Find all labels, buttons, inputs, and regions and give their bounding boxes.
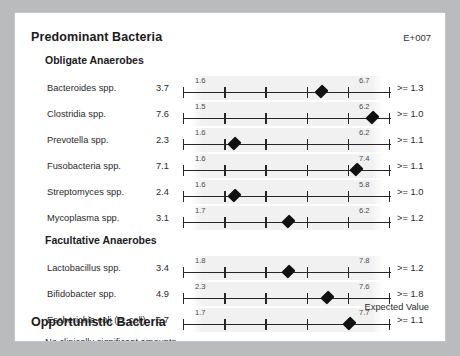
range-shading — [191, 128, 383, 152]
report-card: Predominant Bacteria E+007 Obligate Anae… — [14, 12, 446, 342]
axis-tick — [307, 319, 308, 330]
axis-tick — [224, 217, 225, 228]
axis-tick — [183, 139, 184, 150]
axis-tick — [307, 293, 308, 304]
no-significant-amounts-note: No clinically significant amounts. — [45, 337, 179, 342]
units-label: E+007 — [403, 32, 431, 43]
reference-range: >= 1.0 — [397, 187, 423, 197]
range-high-label: 6.2 — [359, 206, 370, 215]
organism-name: Mycoplasma spp. — [47, 213, 119, 223]
range-shading — [191, 102, 383, 126]
axis-tick — [307, 165, 308, 176]
range-shading — [191, 282, 383, 306]
organism-name: Clostridia spp. — [47, 109, 106, 119]
table-row: Mycoplasma spp.3.11.76.2>= 1.2 — [15, 205, 446, 231]
axis-tick — [183, 191, 184, 202]
axis-tick — [224, 319, 225, 330]
range-low-label: 1.6 — [195, 76, 206, 85]
table-row: Bacteroides spp.3.71.66.7>= 1.3 — [15, 75, 446, 101]
axis-tick — [389, 267, 390, 278]
axis-tick — [265, 217, 266, 228]
axis-tick — [265, 139, 266, 150]
range-low-label: 1.7 — [195, 308, 206, 317]
axis-tick — [348, 293, 349, 304]
report-header: Predominant Bacteria E+007 — [31, 30, 431, 48]
axis-tick — [224, 165, 225, 176]
organism-name: Streptomyces spp. — [47, 187, 124, 197]
reference-range: >= 1.1 — [397, 161, 423, 171]
table-row: Lactobacillus spp.3.41.87.8>= 1.2 — [15, 255, 446, 281]
axis-tick — [348, 191, 349, 202]
axis-tick — [183, 87, 184, 98]
axis-tick — [224, 191, 225, 202]
axis-tick — [389, 139, 390, 150]
range-axis: 1.66.7 — [183, 75, 391, 101]
range-axis: 1.67.4 — [183, 153, 391, 179]
axis-line — [183, 92, 391, 93]
axis-tick — [307, 267, 308, 278]
axis-tick — [183, 165, 184, 176]
organism-value: 2.4 — [143, 187, 169, 197]
organism-value: 2.3 — [143, 135, 169, 145]
organism-name: Lactobacillus spp. — [47, 263, 121, 273]
range-low-label: 1.5 — [195, 102, 206, 111]
axis-tick — [224, 87, 225, 98]
axis-line — [183, 196, 391, 197]
axis-tick — [389, 87, 390, 98]
reference-range: >= 1.0 — [397, 109, 423, 119]
range-axis: 1.87.8 — [183, 255, 391, 281]
organism-name: Prevotella spp. — [47, 135, 109, 145]
table-row: Prevotella spp.2.31.66.2>= 1.1 — [15, 127, 446, 153]
axis-tick — [389, 319, 390, 330]
axis-line — [183, 324, 391, 325]
axis-tick — [389, 191, 390, 202]
axis-tick — [224, 113, 225, 124]
range-high-label: 6.2 — [359, 128, 370, 137]
axis-line — [183, 298, 391, 299]
axis-tick — [183, 293, 184, 304]
page-title: Predominant Bacteria — [31, 30, 162, 44]
axis-tick — [265, 293, 266, 304]
axis-tick — [348, 217, 349, 228]
axis-tick — [307, 139, 308, 150]
organism-name: Bacteroides spp. — [47, 83, 116, 93]
axis-tick — [348, 87, 349, 98]
axis-tick — [224, 139, 225, 150]
reference-range: >= 1.2 — [397, 213, 423, 223]
reference-range: >= 1.3 — [397, 83, 423, 93]
axis-tick — [307, 113, 308, 124]
range-low-label: 1.8 — [195, 256, 206, 265]
expected-value-legend: Expected Value — [365, 302, 429, 312]
axis-tick — [183, 217, 184, 228]
range-low-label: 1.6 — [195, 154, 206, 163]
range-high-label: 6.7 — [359, 76, 370, 85]
reference-range: >= 1.2 — [397, 263, 423, 273]
axis-line — [183, 118, 391, 119]
organism-name: Bifidobacter spp. — [47, 289, 116, 299]
axis-tick — [224, 267, 225, 278]
range-high-label: 7.4 — [359, 154, 370, 163]
group-heading-obligate-anaerobes: Obligate Anaerobes — [45, 54, 144, 66]
axis-tick — [389, 165, 390, 176]
axis-tick — [389, 113, 390, 124]
group-heading-opportunistic: Opportunistic Bacteria — [31, 315, 166, 329]
range-low-label: 1.6 — [195, 128, 206, 137]
range-axis: 1.76.2 — [183, 205, 391, 231]
axis-tick — [183, 113, 184, 124]
axis-tick — [183, 319, 184, 330]
axis-tick — [348, 267, 349, 278]
range-high-label: 6.2 — [359, 102, 370, 111]
organism-value: 3.1 — [143, 213, 169, 223]
axis-tick — [265, 165, 266, 176]
range-axis: 2.37.6 — [183, 281, 391, 307]
organism-value: 3.7 — [143, 83, 169, 93]
table-row: Clostridia spp.7.61.56.2>= 1.0 — [15, 101, 446, 127]
axis-tick — [265, 87, 266, 98]
axis-tick — [265, 113, 266, 124]
axis-tick — [183, 267, 184, 278]
axis-tick — [307, 191, 308, 202]
range-high-label: 7.8 — [359, 256, 370, 265]
organism-value: 4.9 — [143, 289, 169, 299]
range-shading — [191, 180, 383, 204]
range-axis: 1.77.7 — [183, 307, 391, 333]
